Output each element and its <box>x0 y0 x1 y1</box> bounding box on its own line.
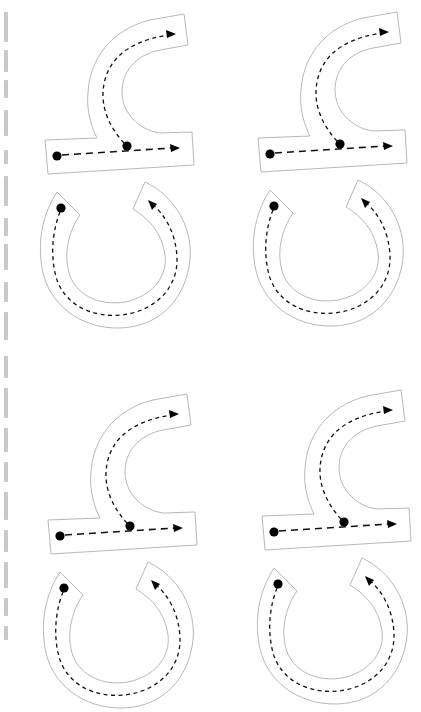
tracing-sheet <box>0 0 421 712</box>
glyph-bottom-right <box>257 390 411 704</box>
glyph-top-right <box>253 12 407 326</box>
glyph-bottom-left <box>43 394 197 708</box>
glyph-top-left <box>40 14 194 328</box>
